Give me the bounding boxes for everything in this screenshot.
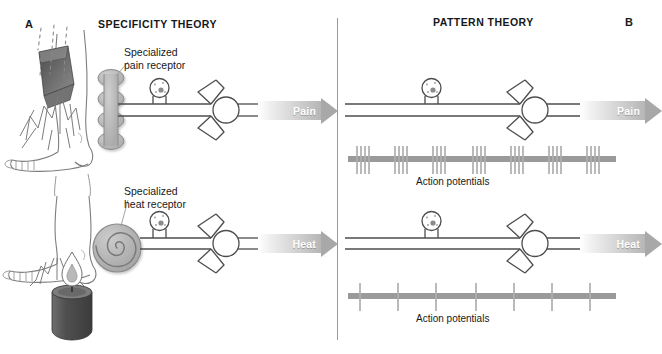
spiral-receptor-icon — [93, 224, 141, 272]
right-arrow-icon — [321, 98, 338, 124]
output-arrow-pain-pattern: Pain — [580, 101, 662, 120]
arrow-bar: Heat — [580, 234, 645, 253]
nerve-fibre-pain-specificity — [118, 80, 268, 140]
label-pain-receptor-line2: pain receptor — [124, 59, 185, 72]
label-specialized-heat-receptor: Specialized heat receptor — [124, 185, 186, 210]
action-potential-train-heat — [348, 283, 616, 311]
synapse-fork-icon-pain-specificity — [213, 97, 239, 123]
arrow-label-pain: Pain — [293, 105, 316, 117]
label-specialized-pain-receptor: Specialized pain receptor — [124, 46, 185, 71]
falling-weight-icon — [39, 46, 74, 108]
arrow-bar: Pain — [580, 101, 645, 120]
nerve-fibre-pain-pattern — [345, 80, 588, 140]
right-arrow-icon — [645, 231, 662, 257]
synapse-fork-icon-heat-specificity — [213, 231, 239, 257]
label-heat-receptor-line1: Specialized — [124, 185, 186, 198]
arrow-bar: Heat — [258, 234, 321, 253]
arrow-label-heat: Heat — [292, 238, 316, 250]
right-arrow-icon — [645, 98, 662, 124]
arrow-label-heat: Heat — [616, 238, 640, 250]
diagram-artwork — [0, 0, 662, 354]
output-arrow-pain-specificity: Pain — [258, 101, 338, 120]
synapse-fork-icon-heat-pattern — [522, 231, 548, 257]
caption-action-potentials-heat: Action potentials — [416, 313, 489, 324]
neuron-soma-icon-heat-specificity — [150, 212, 169, 231]
caption-action-potentials-pain: Action potentials — [416, 176, 489, 187]
bead-chain-receptor-icon — [98, 70, 124, 150]
arrow-label-pain: Pain — [617, 105, 640, 117]
output-arrow-heat-specificity: Heat — [258, 234, 338, 253]
label-heat-receptor-line2: heat receptor — [124, 198, 186, 211]
action-potential-train-pain — [348, 146, 616, 174]
candle-flame-icon — [52, 252, 92, 340]
neuron-soma-icon-pain-pattern — [422, 79, 441, 98]
neuron-soma-icon-heat-pattern — [422, 212, 441, 231]
synapse-fork-icon-pain-pattern — [522, 97, 548, 123]
nerve-fibre-heat-pattern — [345, 214, 588, 273]
figure-root: A B SPECIFICITY THEORY PATTERN THEORY — [0, 0, 662, 354]
arrow-bar: Pain — [258, 101, 321, 120]
right-arrow-icon — [321, 231, 338, 257]
label-pain-receptor-line1: Specialized — [124, 46, 185, 59]
neuron-soma-icon-pain-specificity — [150, 79, 169, 98]
output-arrow-heat-pattern: Heat — [580, 234, 662, 253]
